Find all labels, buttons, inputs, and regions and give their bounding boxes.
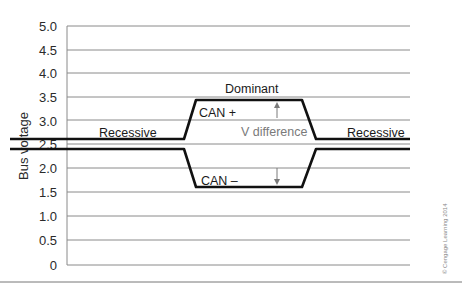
y-axis-label: Bus voltage: [16, 112, 31, 180]
can-low-label: CAN –: [201, 174, 238, 188]
v-difference-label: V difference: [241, 125, 308, 139]
svg-text:3.5: 3.5: [39, 90, 57, 105]
copyright-text: © Cengage Learning 2014: [442, 203, 448, 274]
svg-text:1.0: 1.0: [39, 209, 57, 224]
svg-text:4.0: 4.0: [39, 66, 57, 81]
svg-text:1.5: 1.5: [39, 185, 57, 200]
svg-text:0.5: 0.5: [39, 233, 57, 248]
recessive-left-label: Recessive: [99, 126, 157, 140]
svg-text:3.0: 3.0: [39, 114, 57, 129]
svg-text:5.0: 5.0: [39, 19, 57, 34]
svg-text:4.5: 4.5: [39, 43, 57, 58]
gridlines: [67, 26, 410, 265]
can-high-label: CAN +: [199, 106, 236, 120]
recessive-right-label: Recessive: [347, 126, 405, 140]
svg-text:0: 0: [50, 258, 57, 273]
svg-text:2.0: 2.0: [39, 161, 57, 176]
can-bus-voltage-diagram: 5.0 4.5 4.0 3.5 3.0 2.5 2.0 1.5 1.0 0.5 …: [0, 0, 462, 289]
dominant-label: Dominant: [225, 82, 279, 96]
y-axis-ticks: 5.0 4.5 4.0 3.5 3.0 2.5 2.0 1.5 1.0 0.5 …: [39, 19, 57, 273]
